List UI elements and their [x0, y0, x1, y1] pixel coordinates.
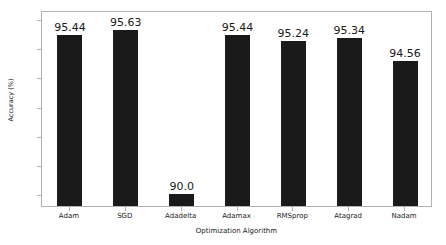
bar	[225, 35, 250, 206]
bar	[393, 61, 418, 206]
y-tick-mark	[37, 137, 41, 138]
x-tick-mark	[181, 207, 182, 211]
x-tick-label: Nadam	[364, 212, 444, 221]
bar	[169, 194, 194, 206]
y-tick-mark	[37, 78, 41, 79]
bar-value-label: 95.63	[86, 17, 166, 29]
x-tick-mark	[404, 207, 405, 211]
y-tick-mark	[37, 20, 41, 21]
bar	[337, 38, 362, 206]
x-tick-mark	[348, 207, 349, 211]
y-tick-mark	[37, 166, 41, 167]
y-tick-mark	[37, 49, 41, 50]
y-axis-title: Accuracy (%)	[7, 55, 15, 145]
bar	[57, 35, 82, 206]
x-tick-mark	[292, 207, 293, 211]
x-tick-mark	[69, 207, 70, 211]
y-tick-mark	[37, 195, 41, 196]
bar	[281, 41, 306, 206]
x-tick-mark	[237, 207, 238, 211]
plot-area: 95.4495.6390.095.4495.2495.3494.56	[41, 11, 432, 207]
y-tick-mark	[37, 108, 41, 109]
x-axis-title: Optimization Algorithm	[41, 227, 432, 236]
bar-value-label: 90.0	[142, 181, 222, 193]
bar-value-label: 94.56	[365, 48, 445, 60]
bar	[113, 30, 138, 206]
x-tick-mark	[125, 207, 126, 211]
bars-layer: 95.4495.6390.095.4495.2495.3494.56	[42, 12, 431, 206]
bar-chart-figure: 90919293949596 Accuracy (%) 95.4495.6390…	[0, 0, 446, 245]
bar-value-label: 95.34	[309, 25, 389, 37]
